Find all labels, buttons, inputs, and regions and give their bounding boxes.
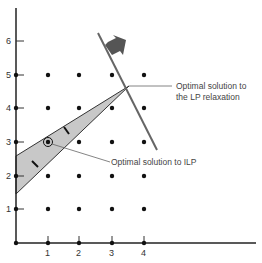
objective-function-line <box>98 33 157 150</box>
lp-relaxation-label-1: Optimal solution to <box>176 81 247 91</box>
y-tick-label-5: 5 <box>6 70 11 80</box>
y-tick-label-6: 6 <box>6 36 11 46</box>
x-tick-label-4: 4 <box>141 248 146 258</box>
y-tick-label-3: 3 <box>6 137 11 147</box>
y-tick-label-2: 2 <box>6 171 11 181</box>
x-tick-label-3: 3 <box>109 248 114 258</box>
lp-relaxation-label-2: the LP relaxation <box>176 92 240 102</box>
y-tick-label-1: 1 <box>6 204 11 214</box>
ilp-diagram: 1 2 3 4 5 6 1 2 3 4 Optimal solution to … <box>0 0 262 263</box>
x-ticks <box>48 236 144 243</box>
ilp-leader-line <box>52 144 110 162</box>
x-tick-label-2: 2 <box>76 248 81 258</box>
x-tick-label-1: 1 <box>45 248 50 258</box>
y-tick-label-4: 4 <box>6 103 11 113</box>
ilp-label: Optimal solution to ILP <box>111 157 197 167</box>
